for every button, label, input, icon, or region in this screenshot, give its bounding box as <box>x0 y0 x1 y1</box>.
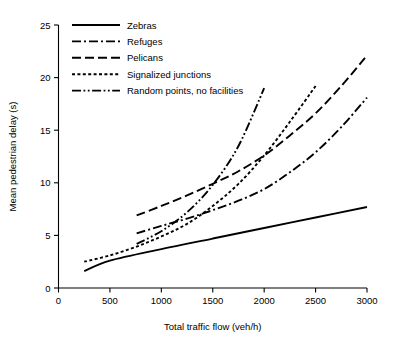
y-tick-label: 15 <box>40 125 51 136</box>
y-tick-label: 20 <box>40 72 51 83</box>
y-tick-label: 5 <box>45 230 50 241</box>
legend-entry-1: Refuges <box>72 36 163 47</box>
x-tick-label: 2000 <box>254 295 275 306</box>
series-line-1 <box>137 98 367 234</box>
x-axis-title: Total traffic flow (veh/h) <box>164 321 262 332</box>
legend-entry-3: Signalized junctions <box>72 69 211 80</box>
legend-label-1: Refuges <box>127 36 163 47</box>
x-tick-label: 3000 <box>356 295 377 306</box>
y-tick-label: 25 <box>40 20 51 31</box>
y-tick-label: 0 <box>45 283 50 294</box>
x-tick-label: 500 <box>102 295 118 306</box>
x-tick-label: 0 <box>56 295 61 306</box>
x-tick-label: 1500 <box>202 295 223 306</box>
legend-entry-0: Zebras <box>72 20 157 31</box>
legend-entry-2: Pelicans <box>72 52 163 63</box>
x-tick-label: 1000 <box>151 295 172 306</box>
line-chart: 0500100015002000250030000510152025Total … <box>0 0 396 339</box>
series-line-3 <box>84 86 315 262</box>
x-tick-label: 2500 <box>305 295 326 306</box>
y-axis-title: Mean pedestrian delay (s) <box>7 102 18 212</box>
legend-entry-4: Random points, no facilities <box>72 85 243 96</box>
chart-figure: 0500100015002000250030000510152025Total … <box>0 0 396 339</box>
series-line-4 <box>137 88 265 244</box>
y-tick-label: 10 <box>40 177 51 188</box>
legend-label-0: Zebras <box>127 20 157 31</box>
chart-axes <box>59 25 368 288</box>
legend-label-2: Pelicans <box>127 52 163 63</box>
legend-label-4: Random points, no facilities <box>127 85 243 96</box>
legend-label-3: Signalized junctions <box>127 69 211 80</box>
series-line-0 <box>84 207 367 271</box>
